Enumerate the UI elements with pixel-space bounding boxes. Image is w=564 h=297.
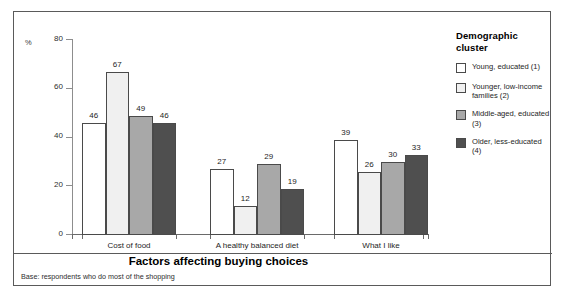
legend: Demographic cluster Young, educated (1)Y… (456, 30, 552, 165)
bar-value-label: 12 (241, 194, 250, 203)
legend-item[interactable]: Middle-aged, educated (3) (456, 109, 552, 128)
bar-value-label: 30 (388, 150, 397, 159)
legend-item[interactable]: Young, educated (1) (456, 62, 552, 73)
bar-value-label: 27 (217, 157, 226, 166)
bar: 67 (106, 72, 130, 235)
bar-value-label: 26 (365, 160, 374, 169)
legend-swatch-icon (456, 110, 466, 120)
legend-item-label: Older, less-educated (4) (472, 137, 552, 156)
bar: 39 (334, 140, 358, 235)
bar: 49 (129, 116, 153, 235)
bar-value-label: 67 (113, 60, 122, 69)
bar-value-label: 33 (412, 143, 421, 152)
footer-divider (14, 253, 552, 254)
bar-value-label: 19 (288, 177, 297, 186)
legend-item[interactable]: Older, less-educated (4) (456, 137, 552, 156)
legend-item[interactable]: Younger, low-income families (2) (456, 82, 552, 101)
bar-value-label: 46 (160, 111, 169, 120)
bar: 19 (281, 189, 305, 235)
bar: 26 (358, 172, 382, 235)
bar: 12 (234, 206, 258, 235)
bar: 33 (405, 155, 429, 235)
bar-value-label: 46 (89, 111, 98, 120)
bar-value-label: 29 (264, 152, 273, 161)
category-label: Cost of food (107, 241, 150, 250)
bar: 46 (153, 123, 177, 235)
chart-figure: % 020406080 466749462712291939263033 Cos… (0, 0, 564, 297)
bar-value-label: 49 (136, 104, 145, 113)
legend-swatch-icon (456, 138, 466, 148)
category-label: What I like (362, 241, 399, 250)
x-axis-title: Factors affecting buying choices (14, 255, 423, 267)
legend-title: Demographic cluster (456, 30, 552, 53)
bar: 29 (257, 164, 281, 235)
base-footnote: Base: respondents who do most of the sho… (21, 272, 175, 281)
bar-value-label: 39 (341, 128, 350, 137)
bar: 27 (210, 169, 234, 235)
legend-swatch-icon (456, 63, 466, 73)
bar: 46 (82, 123, 106, 235)
bar: 30 (381, 162, 405, 235)
chart-frame: % 020406080 466749462712291939263033 Cos… (13, 11, 551, 286)
category-label: A healthy balanced diet (216, 241, 299, 250)
legend-item-label: Young, educated (1) (472, 62, 540, 72)
legend-item-label: Younger, low-income families (2) (472, 82, 552, 101)
legend-items: Young, educated (1)Younger, low-income f… (456, 62, 552, 156)
legend-swatch-icon (456, 83, 466, 93)
legend-item-label: Middle-aged, educated (3) (472, 109, 552, 128)
